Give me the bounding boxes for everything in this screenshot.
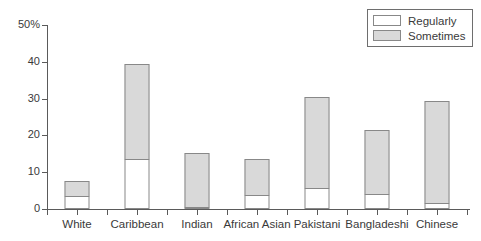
x-axis-label-white: White xyxy=(62,218,91,231)
bar-white xyxy=(65,181,90,209)
bar-segment-sometimes xyxy=(185,153,210,208)
legend-label-regularly: Regularly xyxy=(408,15,457,27)
plot-area xyxy=(47,25,467,209)
legend-swatch-sometimes-icon xyxy=(373,30,401,41)
x-tick-12 xyxy=(407,210,408,215)
legend-swatch-regularly-icon xyxy=(373,15,401,26)
bar-segment-sometimes xyxy=(65,181,90,198)
bar-segment-regularly xyxy=(125,159,150,209)
y-tick-label-10: 10 xyxy=(0,166,40,177)
y-tick-label-20: 20 xyxy=(0,129,40,140)
legend-label-sometimes: Sometimes xyxy=(408,30,466,42)
x-tick-7 xyxy=(257,210,258,215)
bar-bangladeshi xyxy=(365,130,390,209)
bar-pakistani xyxy=(305,97,330,209)
x-tick-9 xyxy=(317,210,318,215)
x-tick-8 xyxy=(287,210,288,215)
y-tick-label-0: 0 xyxy=(0,203,40,214)
bar-african-asian xyxy=(245,159,270,210)
legend-item-sometimes: Sometimes xyxy=(373,29,466,42)
bar-segment-sometimes xyxy=(365,130,390,196)
y-tick-label-50: 50% xyxy=(0,19,40,30)
bar-segment-regularly xyxy=(425,203,450,209)
x-axis-label-chinese: Chinese xyxy=(416,218,458,231)
bar-segment-sometimes xyxy=(245,159,270,197)
bar-chart: 01020304050% WhiteCaribbeanIndianAfrican… xyxy=(0,0,481,241)
bar-segment-regularly xyxy=(185,207,210,209)
x-axis-label-bangladeshi: Bangladeshi xyxy=(345,218,408,231)
x-axis-label-pakistani: Pakistani xyxy=(294,218,341,231)
x-tick-5 xyxy=(197,210,198,215)
x-tick-13 xyxy=(437,210,438,215)
x-tick-11 xyxy=(377,210,378,215)
bar-segment-sometimes xyxy=(305,97,330,189)
bar-segment-sometimes xyxy=(125,64,150,160)
y-tick-label-40: 40 xyxy=(0,56,40,67)
x-tick-14 xyxy=(467,210,468,215)
x-tick-0 xyxy=(47,210,48,215)
bar-caribbean xyxy=(125,64,150,209)
x-axis-label-caribbean: Caribbean xyxy=(110,218,163,231)
legend-item-regularly: Regularly xyxy=(373,14,466,27)
x-tick-2 xyxy=(107,210,108,215)
bar-segment-regularly xyxy=(305,188,330,209)
bar-segment-sometimes xyxy=(425,101,450,204)
x-tick-6 xyxy=(227,210,228,215)
x-tick-3 xyxy=(137,210,138,215)
x-tick-10 xyxy=(347,210,348,215)
x-axis-label-african-asian: African Asian xyxy=(223,218,290,231)
x-tick-1 xyxy=(77,210,78,215)
bar-segment-regularly xyxy=(65,196,90,209)
bar-segment-regularly xyxy=(365,194,390,209)
y-tick-label-30: 30 xyxy=(0,93,40,104)
chart-legend: Regularly Sometimes xyxy=(367,9,473,47)
bar-indian xyxy=(185,153,210,209)
bar-segment-regularly xyxy=(245,195,270,209)
bar-chinese xyxy=(425,101,450,209)
x-axis-label-indian: Indian xyxy=(181,218,212,231)
x-tick-4 xyxy=(167,210,168,215)
